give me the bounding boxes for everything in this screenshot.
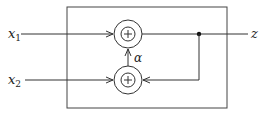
system-boundary-box	[67, 7, 227, 108]
gain-alpha-label: α	[134, 51, 142, 65]
input-x2-label: x2	[8, 72, 21, 89]
output-z-label: z	[250, 26, 258, 41]
input-x1-label: x1	[8, 26, 21, 43]
adder-top	[114, 20, 142, 48]
adder-bottom	[114, 66, 142, 94]
feedback-line	[143, 34, 199, 80]
block-diagram: x1 x2 z α	[0, 0, 265, 113]
